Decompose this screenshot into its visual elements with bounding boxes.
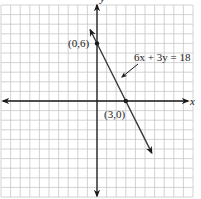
data-point — [95, 41, 99, 45]
point-label-1: (3,0) — [104, 108, 125, 121]
y-axis-label: y — [99, 0, 105, 4]
data-point — [124, 99, 128, 103]
x-axis-label: x — [189, 95, 195, 107]
coordinate-plane: x y 6x + 3y = 18 (0,6) (3,0) — [0, 0, 201, 199]
point-label-0: (0,6) — [68, 37, 89, 50]
equation-label: 6x + 3y = 18 — [134, 51, 191, 63]
